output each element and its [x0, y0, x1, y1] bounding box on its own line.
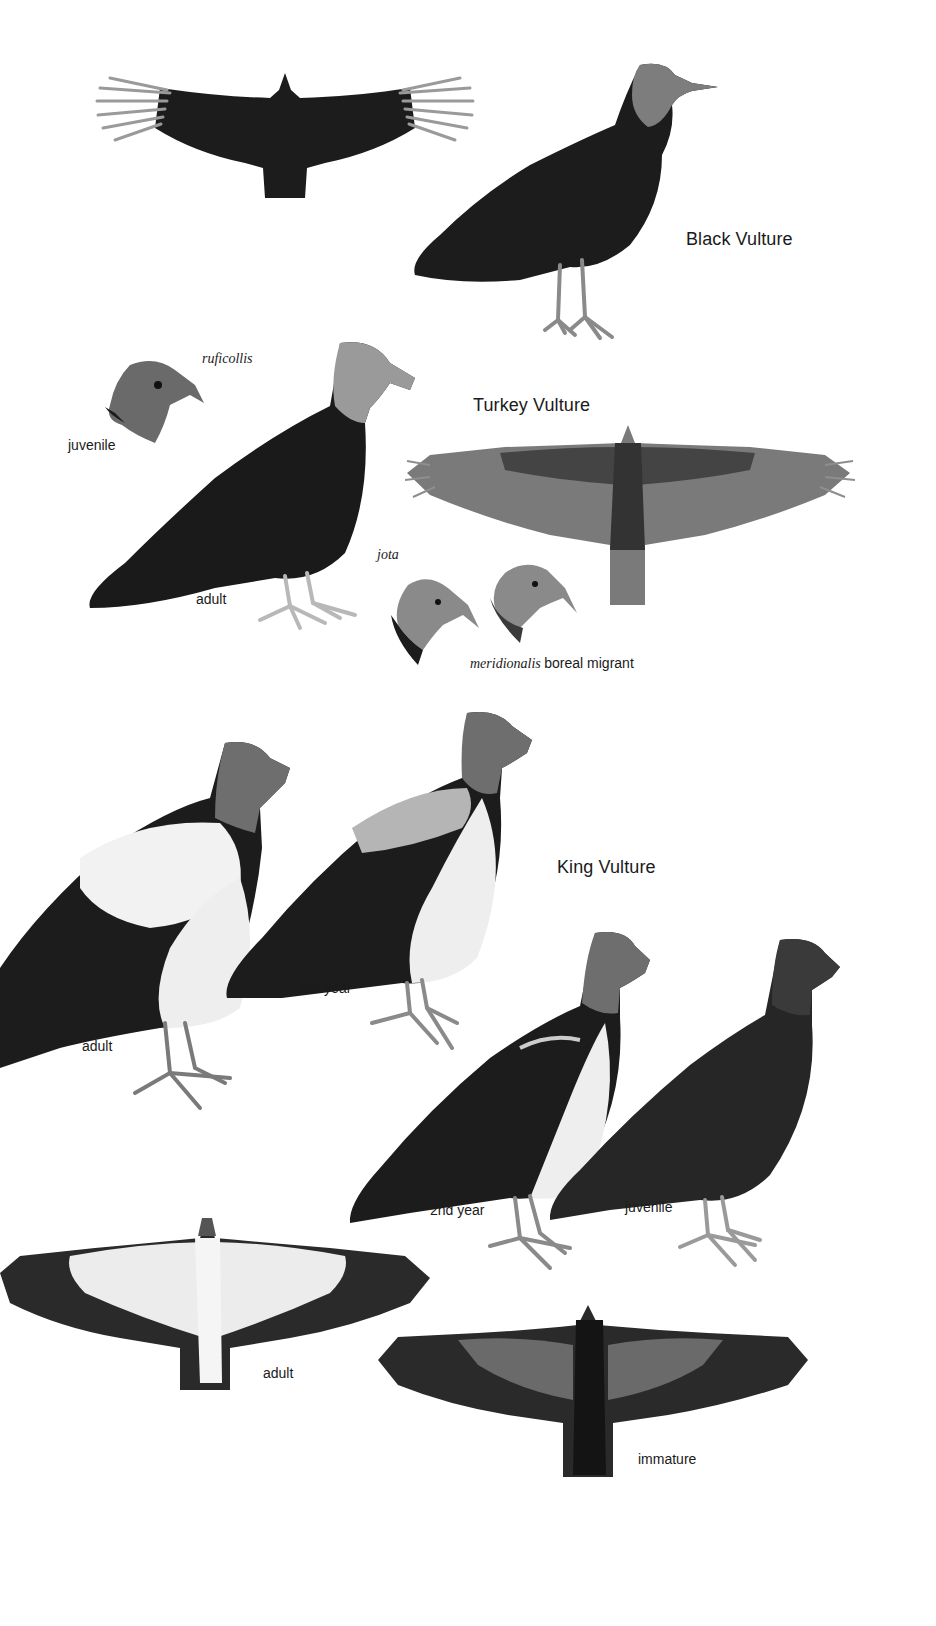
species-name-turkey-vulture: Turkey Vulture [473, 396, 590, 414]
species-name-king-vulture: King Vulture [557, 858, 656, 876]
king-vulture-immature-flight-illustration [378, 1305, 808, 1485]
age-label-king-adult: adult [82, 1039, 112, 1053]
turkey-vulture-jota-head-illustration [383, 570, 483, 670]
subspecies-meridionalis: meridionalis [470, 656, 541, 671]
age-label-king-3rd-year: 3rd year [300, 981, 351, 995]
black-vulture-perched-illustration [400, 55, 730, 350]
field-guide-plate: Black Vulture ruficollis juvenile adult … [0, 0, 936, 1626]
turkey-vulture-adult-perched-illustration [85, 338, 425, 638]
age-label-king-flight-adult: adult [263, 1366, 293, 1380]
subspecies-meridionalis-boreal-migrant: meridionalis boreal migrant [470, 656, 634, 671]
age-label-king-2nd-year: 2nd year [430, 1203, 484, 1217]
population-boreal-migrant: boreal migrant [544, 655, 634, 671]
age-label-king-flight-immature: immature [638, 1452, 696, 1466]
age-label-king-juvenile: juvenile [625, 1200, 672, 1214]
species-name-black-vulture: Black Vulture [686, 230, 793, 248]
age-label-adult-turkey: adult [196, 592, 226, 606]
turkey-vulture-meridionalis-head-illustration [485, 558, 585, 648]
subspecies-jota: jota [377, 548, 399, 562]
king-vulture-juvenile-illustration [550, 935, 850, 1275]
king-vulture-adult-flight-illustration [0, 1218, 430, 1398]
